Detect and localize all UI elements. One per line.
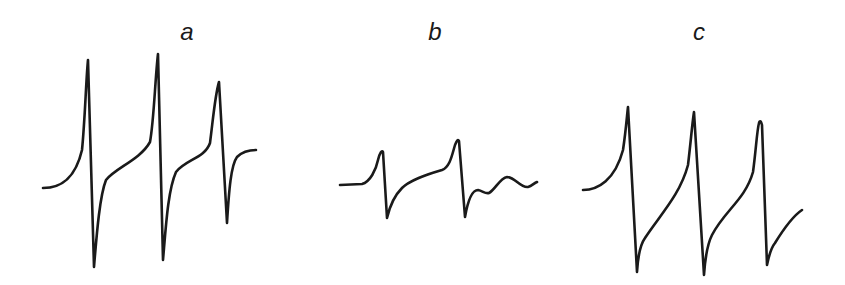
panel-label-c: c: [693, 20, 705, 44]
spectrum-a-trace: [43, 54, 256, 267]
panel-label-b: b: [428, 20, 441, 44]
spectrum-c-trace: [583, 107, 802, 275]
spectrum-b-trace: [340, 140, 537, 218]
epr-spectra-figure: a b c: [0, 0, 845, 285]
spectra-canvas: [0, 0, 845, 285]
panel-label-a: a: [180, 20, 193, 44]
